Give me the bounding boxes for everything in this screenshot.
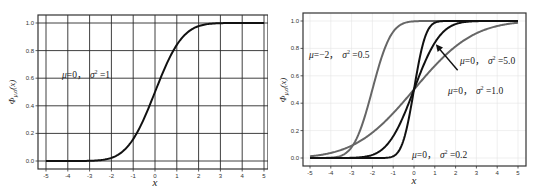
y-tick-label: 0.2	[26, 130, 35, 136]
y-axis-label: Φμ,σ(x)	[7, 80, 18, 104]
annotation-mu0-sigma1p0: μ=0，σ2 =1.0	[447, 85, 503, 96]
grid-lines	[38, 15, 268, 169]
x-tick-label: 5	[516, 170, 520, 176]
x-tick-label: 2	[454, 170, 458, 176]
y-tick-label: 0.8	[291, 45, 300, 51]
x-tick-label: 1	[175, 173, 179, 179]
annotation-mu0-sigma5p0: μ=0，σ2 =5.0	[459, 55, 515, 66]
y-tick-label: 1.0	[291, 18, 300, 24]
y-tick-label: 0.0	[291, 155, 300, 161]
x-tick-label: -2	[370, 170, 376, 176]
y-tick-label: 0.4	[26, 103, 35, 109]
plot-frame	[38, 15, 268, 169]
annotation-mu0-sigma0p2: μ=0，σ2 =0.2	[411, 149, 467, 160]
x-tick-label: -3	[349, 170, 355, 176]
x-tick-label: -5	[307, 170, 313, 176]
y-tick-label: 0.6	[291, 73, 300, 79]
annotation-mu0-sigma1: μ=0，σ2 =1	[61, 69, 110, 80]
annotation-mu-neg2-sigma0p5: μ=−2，σ2 =0.5	[308, 49, 370, 60]
y-tick-label: 0.2	[291, 128, 300, 134]
x-tick-label: 3	[219, 173, 223, 179]
y-axis-ticks: 0.00.20.40.60.81.0	[26, 20, 38, 164]
x-tick-label: 4	[241, 173, 245, 179]
x-tick-label: -2	[109, 173, 115, 179]
x-axis-label: x	[152, 176, 158, 188]
arrow-head-icon	[436, 44, 443, 52]
y-axis-label: Φμ,σ(x)	[278, 78, 289, 102]
x-tick-label: -5	[43, 173, 49, 179]
x-tick-label: 2	[197, 173, 201, 179]
x-tick-label: 3	[475, 170, 479, 176]
y-tick-label: 0.6	[26, 75, 35, 81]
y-tick-label: 0.4	[291, 100, 300, 106]
chart-left-standard-normal-cdf: -5-4-3-2-10123450.00.20.40.60.81.0μ=0，σ2…	[0, 0, 268, 194]
x-tick-label: -4	[328, 170, 334, 176]
y-tick-label: 0.0	[26, 158, 35, 164]
x-tick-label: -1	[131, 173, 137, 179]
y-axis-ticks: 0.00.20.40.60.81.0	[291, 18, 303, 161]
y-tick-label: 0.8	[26, 48, 35, 54]
x-tick-label: 5	[262, 173, 266, 179]
x-axis-label: x	[411, 174, 417, 186]
x-tick-label: 4	[496, 170, 500, 176]
chart-right-canvas: -5-4-3-2-10123450.00.20.40.60.81.0μ=−2，σ…	[268, 0, 534, 194]
x-tick-label: -3	[87, 173, 93, 179]
y-tick-label: 1.0	[26, 20, 35, 26]
chart-right-normal-cdf-comparison: -5-4-3-2-10123450.00.20.40.60.81.0μ=−2，σ…	[268, 0, 534, 194]
x-tick-label: -1	[391, 170, 397, 176]
x-tick-label: -4	[65, 173, 71, 179]
x-tick-label: 1	[433, 170, 437, 176]
chart-left-canvas: -5-4-3-2-10123450.00.20.40.60.81.0μ=0，σ2…	[0, 0, 268, 194]
